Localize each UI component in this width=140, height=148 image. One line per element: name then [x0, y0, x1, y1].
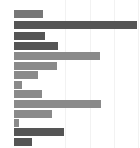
bar — [14, 100, 101, 108]
bar — [14, 81, 22, 89]
plot-area — [0, 0, 140, 148]
bar — [14, 90, 42, 98]
bar — [14, 71, 38, 79]
bar-chart — [0, 0, 140, 148]
bar — [14, 62, 57, 70]
bar — [14, 52, 100, 60]
bar — [14, 10, 43, 18]
bar — [14, 21, 137, 29]
bar — [14, 32, 45, 40]
gridline-3 — [138, 0, 139, 148]
bar — [14, 119, 19, 127]
bar — [14, 42, 58, 50]
bar — [14, 138, 32, 146]
bar — [14, 110, 52, 118]
bar — [14, 128, 64, 136]
